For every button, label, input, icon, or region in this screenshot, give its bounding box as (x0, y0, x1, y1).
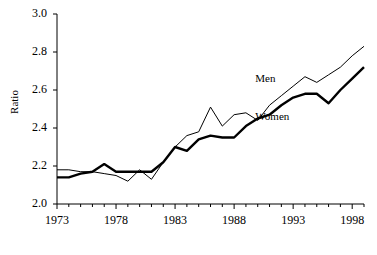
y-axis-ticks (53, 14, 57, 204)
x-axis-ticks (57, 204, 364, 209)
data-series (57, 46, 364, 181)
plot-area (0, 0, 377, 255)
ratio-line-chart: Ratio 2.02.22.42.62.83.0 197319781983198… (0, 0, 377, 255)
series-line-men (57, 46, 364, 181)
series-line-women (57, 67, 364, 177)
axes (57, 14, 364, 204)
